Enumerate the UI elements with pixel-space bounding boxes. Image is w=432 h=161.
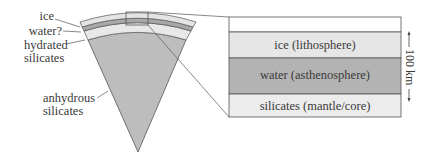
detail-layer-top — [229, 17, 401, 32]
label-hydrated-line2: silicates — [24, 52, 64, 65]
label-water: water? — [18, 25, 62, 38]
layer-label-silicates: silicates (mantle/core) — [229, 99, 401, 114]
diagram-stage: ice water? hydrated silicates anhydrous … — [0, 0, 432, 161]
anhydrous-silicates-region — [88, 33, 186, 152]
label-ice: ice — [30, 10, 54, 23]
scale-label: 100 km — [402, 49, 417, 85]
label-anhydrous-line2: silicates — [43, 105, 83, 118]
layer-label-water: water (asthenosphere) — [229, 68, 401, 83]
layer-label-ice: ice (lithosphere) — [229, 38, 401, 53]
